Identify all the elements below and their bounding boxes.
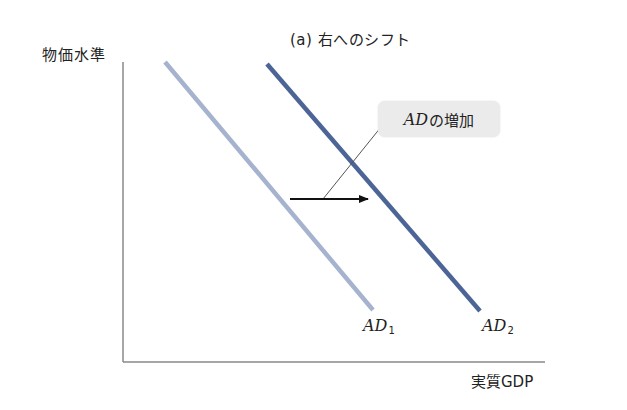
- ad2-label-main: AD: [482, 316, 506, 335]
- ad1-curve: [165, 62, 373, 310]
- y-axis-label: 物価水準: [42, 43, 106, 64]
- callout-text: の増加: [429, 109, 474, 130]
- ad2-label-sub: 2: [507, 325, 513, 336]
- ad1-label: AD1: [363, 316, 395, 336]
- ad-increase-callout: ADの増加: [378, 101, 500, 137]
- ad1-label-main: AD: [363, 316, 387, 335]
- x-axis-label: 実質GDP: [471, 370, 533, 391]
- callout-italic-text: AD: [404, 110, 428, 129]
- ad2-label: AD2: [482, 316, 514, 336]
- ad1-label-sub: 1: [388, 325, 394, 336]
- chart-title: (a) 右へのシフト: [290, 28, 411, 49]
